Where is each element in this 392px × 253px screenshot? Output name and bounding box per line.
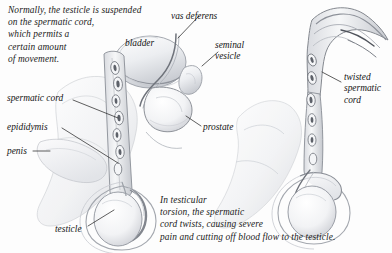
label-bladder: bladder	[125, 38, 154, 49]
label-twisted-spermatic-cord: twisted spermatic cord	[344, 72, 381, 106]
label-seminal-vesicle: seminal vesicle	[215, 40, 244, 63]
label-epididymis: epididymis	[7, 122, 48, 133]
torsion-caption: In testicular torsion, the spermatic cor…	[160, 194, 335, 243]
label-testicle: testicle	[55, 224, 82, 235]
label-vas-deferens: vas deferens	[171, 11, 217, 22]
label-prostate: prostate	[203, 122, 233, 133]
label-penis: penis	[7, 146, 27, 157]
illustration-figure: Normally, the testicle is suspended on t…	[0, 0, 392, 253]
intro-caption: Normally, the testicle is suspended on t…	[8, 4, 141, 65]
label-spermatic-cord: spermatic cord	[7, 93, 63, 104]
